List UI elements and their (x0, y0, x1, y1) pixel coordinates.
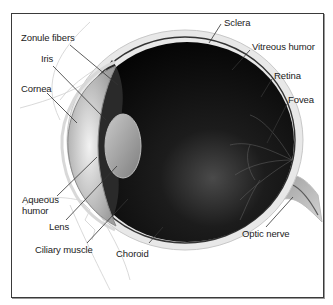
label-fovea: Fovea (288, 94, 314, 105)
lens-shape (105, 114, 141, 178)
label-iris: Iris (41, 53, 53, 64)
label-ciliary-muscle: Ciliary muscle (35, 244, 93, 255)
label-lens: Lens (49, 221, 69, 232)
label-sclera: Sclera (224, 17, 250, 28)
label-cornea: Cornea (21, 83, 52, 94)
label-choroid: Choroid (116, 248, 149, 259)
label-vitreous-humor: Vitreous humor (252, 41, 315, 52)
label-aqueous-humor: Aqueous humor (22, 194, 59, 216)
label-optic-nerve: Optic nerve (242, 228, 289, 239)
label-retina: Retina (274, 70, 301, 81)
label-zonule-fibers: Zonule fibers (21, 32, 75, 43)
